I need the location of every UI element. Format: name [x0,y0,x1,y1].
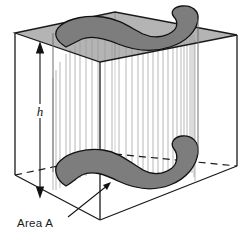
figure-container: h Area A [0,0,252,237]
area-label: Area A [17,217,53,229]
bottom-cross-section-blob [56,136,198,189]
prism-diagram: h Area A [0,0,252,237]
height-arrowhead-bottom [37,187,44,197]
height-label: h [37,104,44,119]
height-dimension-arrow [37,43,44,197]
area-leader-arrowhead [103,182,111,190]
area-leader-line [68,185,108,217]
edge-bottom-left-front [15,175,100,220]
height-arrowhead-top [37,43,44,53]
